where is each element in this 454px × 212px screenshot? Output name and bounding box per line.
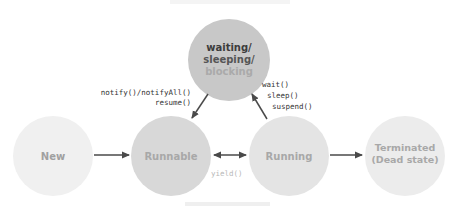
- transition-label-wait: wait(): [262, 80, 289, 89]
- caption-faint: [185, 202, 270, 206]
- transition-label-sleep: sleep(): [267, 91, 299, 100]
- state-waiting-label-line3: blocking: [205, 66, 253, 77]
- state-waiting-label-line1: waiting/: [206, 42, 252, 53]
- state-new-label: New: [41, 151, 65, 162]
- state-runnable-label: Runnable: [144, 151, 197, 162]
- state-running-label: Running: [266, 151, 313, 162]
- arrow-waiting-to-runnable: [192, 94, 208, 118]
- transition-label-suspend: suspend(): [272, 102, 313, 111]
- transition-label-yield: yield(): [211, 169, 243, 178]
- arrow-running-to-waiting: [252, 94, 267, 119]
- thread-lifecycle-diagram: waiting/ sleeping/ blocking New Runnable…: [0, 0, 454, 212]
- state-terminated-label-line1: Terminated: [375, 142, 435, 153]
- top-faint-text: [170, 0, 290, 4]
- diagram-svg: waiting/ sleeping/ blocking New Runnable…: [0, 0, 454, 212]
- state-terminated-label-line2: (Dead state): [371, 154, 438, 165]
- state-waiting-label-line2: sleeping/: [203, 54, 255, 65]
- transition-label-notify: notify()/notifyAll(): [101, 88, 191, 97]
- transition-label-resume: resume(): [155, 98, 191, 107]
